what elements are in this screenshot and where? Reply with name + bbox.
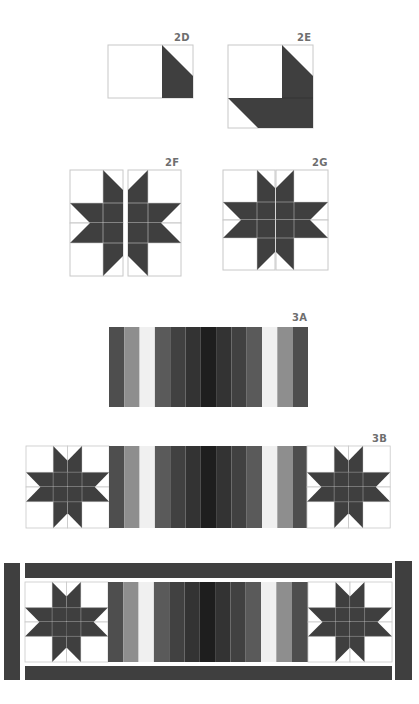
border-top (25, 563, 392, 578)
strip-panel-3a (109, 327, 308, 407)
border-right (395, 561, 412, 680)
border-left (4, 563, 20, 680)
block-2e (228, 45, 313, 128)
border-bottom (25, 666, 392, 680)
final-quilt (4, 561, 412, 680)
quilt-diagram (0, 0, 419, 704)
block-2g (223, 170, 328, 270)
block-2d (108, 45, 193, 98)
row-3b (26, 446, 390, 528)
block-2f (70, 170, 181, 276)
